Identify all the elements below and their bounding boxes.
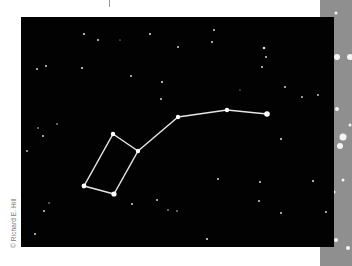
star <box>167 209 169 211</box>
star-field <box>21 17 334 247</box>
star <box>265 56 267 58</box>
strip-star <box>334 238 338 242</box>
strip-star <box>335 12 338 15</box>
strip-star <box>342 179 345 182</box>
star <box>284 86 286 88</box>
star <box>161 81 163 83</box>
star <box>36 68 38 70</box>
constellation-star-bowl-top-right <box>136 149 140 153</box>
star <box>280 212 282 214</box>
star <box>325 211 327 213</box>
page-tick-mark <box>109 0 110 7</box>
constellation-line <box>178 110 227 117</box>
star <box>26 150 28 152</box>
constellation-star-handle-end <box>264 111 270 117</box>
constellation-star-handle-2 <box>225 108 229 112</box>
constellation-star-bowl-bottom-right <box>111 191 116 196</box>
photo-credit: © Richard E. Hill <box>10 199 17 248</box>
constellation-star-bowl-bottom-left <box>82 184 87 189</box>
star <box>213 29 215 31</box>
star <box>56 123 58 125</box>
star <box>317 94 319 96</box>
star <box>34 233 36 235</box>
constellation-line <box>113 134 138 151</box>
strip-star <box>347 54 352 60</box>
star <box>258 200 260 202</box>
star <box>176 210 178 212</box>
constellation-star-handle-1 <box>176 115 180 119</box>
background-stars <box>26 29 327 240</box>
star <box>217 178 219 180</box>
star <box>119 39 120 40</box>
star <box>149 33 151 35</box>
strip-star <box>334 54 340 60</box>
strip-star <box>349 124 352 127</box>
constellation-line <box>227 110 267 114</box>
star <box>97 39 99 41</box>
constellation-line <box>114 151 138 194</box>
star <box>131 203 133 205</box>
star <box>261 66 263 68</box>
star <box>206 238 208 240</box>
star <box>48 202 49 203</box>
constellation-photo <box>21 17 334 247</box>
star <box>156 199 158 201</box>
star <box>259 181 261 183</box>
star <box>37 127 39 129</box>
constellation-line <box>84 134 113 186</box>
star <box>45 65 47 67</box>
star <box>43 210 45 212</box>
constellation-line <box>138 117 178 151</box>
star <box>312 180 314 182</box>
star <box>211 41 213 43</box>
star <box>81 67 83 69</box>
strip-star <box>337 143 343 149</box>
star <box>301 96 303 98</box>
star <box>160 98 162 100</box>
constellation-stars <box>82 108 270 197</box>
constellation-line <box>84 186 114 194</box>
constellation-lines <box>84 110 267 194</box>
star <box>177 46 179 48</box>
star <box>83 33 85 35</box>
strip-star <box>346 246 350 250</box>
star <box>263 47 266 50</box>
star <box>280 138 282 140</box>
constellation-star-bowl-top-left <box>111 132 115 136</box>
strip-star <box>340 134 347 141</box>
star <box>42 135 44 137</box>
star <box>239 89 240 90</box>
star <box>130 75 132 77</box>
strip-star <box>335 107 339 111</box>
